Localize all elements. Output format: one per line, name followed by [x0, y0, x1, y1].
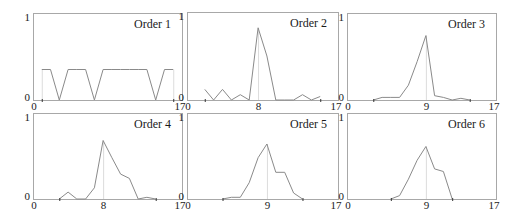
data-series-line [205, 28, 320, 100]
panel-title: Order 1 [134, 17, 171, 31]
x-tick-label-min: 0 [185, 100, 191, 112]
x-tick-label-peak: 8 [101, 199, 107, 211]
x-tick-label-peak: 9 [424, 199, 430, 211]
y-tick-label-max: 1 [25, 11, 31, 23]
y-tick-label-min: 0 [339, 91, 345, 103]
x-tick-label-max: 17 [489, 199, 501, 211]
x-tick-label-peak: 8 [256, 100, 262, 112]
y-tick-label-max: 1 [25, 111, 31, 123]
panel-title: Order 4 [134, 117, 171, 131]
y-tick-label-max: 1 [339, 11, 345, 23]
chart-grid: Order 101017Order 2010178Order 3010179Or… [0, 0, 524, 222]
y-tick-label-max: 1 [339, 111, 345, 123]
chart-panel-5: Order 5010179 [179, 111, 343, 211]
data-series-line [223, 144, 303, 199]
chart-panel-2: Order 2010178 [179, 10, 343, 112]
y-tick-label-max: 1 [179, 111, 185, 123]
y-tick-label-min: 0 [25, 91, 31, 103]
chart-panel-6: Order 6010179 [339, 111, 501, 211]
panel-title: Order 5 [290, 117, 327, 131]
x-tick-label-peak: 9 [424, 100, 430, 112]
x-tick-label-min: 0 [31, 100, 37, 112]
order-distribution-figure: Order 101017Order 2010178Order 3010179Or… [0, 0, 524, 222]
chart-panel-4: Order 4010178 [25, 111, 187, 211]
chart-panel-1: Order 101017 [25, 11, 187, 112]
x-tick-label-peak: 9 [265, 199, 271, 211]
x-tick-label-min: 0 [345, 100, 351, 112]
y-tick-label-max: 1 [179, 10, 185, 22]
panel-title: Order 2 [290, 16, 327, 30]
y-tick-label-min: 0 [179, 91, 185, 103]
data-series-line [391, 147, 452, 200]
x-tick-label-max: 17 [489, 100, 501, 112]
data-series-line [42, 70, 173, 101]
y-tick-label-min: 0 [339, 190, 345, 202]
x-tick-label-min: 0 [31, 199, 37, 211]
y-tick-label-min: 0 [179, 190, 185, 202]
data-series-line [373, 36, 469, 100]
y-tick-label-min: 0 [25, 190, 31, 202]
chart-panel-3: Order 3010179 [339, 11, 501, 112]
x-tick-label-min: 0 [345, 199, 351, 211]
panel-title: Order 6 [448, 117, 485, 131]
panel-title: Order 3 [448, 17, 485, 31]
x-tick-label-min: 0 [185, 199, 191, 211]
data-series-line [59, 141, 155, 200]
